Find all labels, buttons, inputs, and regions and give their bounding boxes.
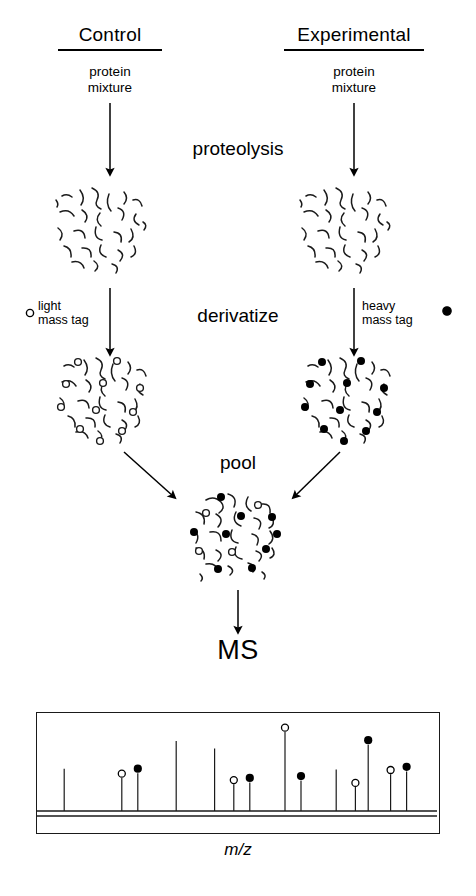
tagged-peptide-cluster-control	[60, 358, 146, 443]
spectrum-peak	[118, 770, 125, 811]
spectrum-baseline	[37, 811, 437, 816]
light-mass-tag-line2: mass tag	[38, 313, 89, 327]
light-mass-tag-marker-icon	[26, 309, 33, 316]
spectrum-peak	[387, 767, 394, 812]
stage-label-pool: pool	[198, 452, 278, 474]
stage-label-ms: MS	[188, 635, 288, 666]
spectrum-peak	[297, 772, 305, 811]
arrow-pool-from-control	[124, 452, 173, 496]
pooled-sample-cluster	[192, 494, 274, 581]
mass-spectrum-plot	[37, 713, 437, 831]
peak-marker-light-icon	[230, 777, 237, 784]
heavy-mass-tag-label: heavy mass tag	[362, 299, 413, 327]
peak-marker-heavy-icon	[364, 736, 372, 744]
spectrum-peak	[403, 763, 411, 811]
peak-marker-heavy-icon	[134, 765, 142, 773]
peak-marker-light-icon	[387, 767, 394, 774]
arrow-pool-from-experimental	[295, 452, 340, 496]
peak-marker-light-icon	[118, 770, 125, 777]
spectrum-peak	[246, 774, 254, 811]
isotope-labeling-workflow-diagram: Control Experimental protein mixture pro…	[0, 0, 476, 896]
peptide-cluster-experimental	[300, 188, 390, 273]
stage-label-proteolysis: proteolysis	[160, 138, 316, 160]
spectrum-peak	[352, 779, 359, 811]
peak-marker-heavy-icon	[246, 774, 254, 782]
stage-label-derivatize: derivatize	[160, 305, 316, 327]
axis-label-mz: m/z	[188, 840, 288, 860]
light-mass-tag-line1: light	[38, 299, 89, 313]
light-mass-tag-label: light mass tag	[38, 299, 89, 327]
peak-marker-heavy-icon	[403, 763, 411, 771]
peptide-cluster-control	[56, 188, 146, 273]
mass-spectrum-panel	[36, 712, 440, 834]
spectrum-peak	[364, 736, 372, 811]
peak-marker-light-icon	[282, 724, 289, 731]
heavy-mass-tag-line2: mass tag	[362, 313, 413, 327]
spectrum-peak	[282, 724, 289, 811]
spectrum-peak	[230, 777, 237, 811]
heavy-mass-tag-marker-icon	[443, 307, 451, 315]
tagged-peptide-cluster-experimental	[304, 358, 390, 443]
peak-marker-light-icon	[352, 779, 359, 786]
heavy-mass-tag-line1: heavy	[362, 299, 413, 313]
spectrum-peak	[134, 765, 142, 811]
peak-marker-heavy-icon	[297, 772, 305, 780]
